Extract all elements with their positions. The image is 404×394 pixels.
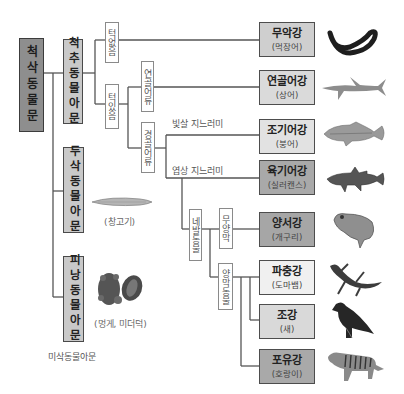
croaker-icon <box>322 119 386 149</box>
class-example: (새) <box>280 323 295 335</box>
class-example: (먹장어) <box>272 41 303 53</box>
subphylum-urochordata-box: 피낭동물아문 <box>63 256 84 342</box>
class-example: (호랑이) <box>272 368 303 380</box>
branch-jawless-box: 턱없음 <box>105 22 119 63</box>
class-sarcopterygii-box: 육기어강 (실러캔스) <box>259 160 315 195</box>
subphylum-cephalochordata-box: 두삭동물아문 <box>63 147 84 233</box>
branch-jawless-label: 턱없음 <box>106 29 119 56</box>
class-mammalia-box: 포유강 (호랑이) <box>259 349 315 384</box>
phylum-chordata-box: 척삭동물문 <box>19 38 44 132</box>
tiger-icon <box>326 347 386 383</box>
class-name: 조기어강 <box>267 124 307 138</box>
subphylum-urochordata-label: 피낭동물아문 <box>66 254 82 344</box>
sea-squirt-icon <box>96 270 146 310</box>
lizard-icon <box>326 260 384 300</box>
phylum-chordata-label: 척삭동물문 <box>23 45 40 125</box>
class-reptilia-box: 파충강 (도마뱀) <box>259 260 315 295</box>
class-actinopterygii-box: 조기어강 (붕어) <box>259 119 315 154</box>
class-example: (상어) <box>276 89 299 101</box>
lancelet-caption: (창고기) <box>104 215 135 228</box>
class-name: 육기어강 <box>267 165 307 179</box>
ray-finned-label: 빛살 지느러미 <box>172 117 223 130</box>
branch-amniotes-box: 양막동물 <box>218 263 233 310</box>
class-name: 양서강 <box>272 217 302 231</box>
class-example: (도마뱀) <box>272 279 303 291</box>
class-name: 파충강 <box>272 265 302 279</box>
class-agnatha-box: 무악강 (먹장어) <box>259 22 315 57</box>
branch-bony-box: 경골어류 <box>141 122 155 173</box>
branch-bony-label: 경골어류 <box>142 130 155 166</box>
branch-tetrapods-label: 네발동물 <box>189 217 202 253</box>
class-aves-box: 조강 (새) <box>259 304 315 339</box>
sea-squirt-caption: (멍게, 미더덕) <box>94 317 147 330</box>
class-name: 포유강 <box>272 354 302 368</box>
class-name: 조강 <box>277 309 297 323</box>
class-name: 연골어강 <box>267 75 307 89</box>
branch-tetrapods-box: 네발동물 <box>189 209 202 261</box>
branch-cartilaginous-box: 연골어류 <box>141 61 154 112</box>
subphylum-cephalochordata-label: 두삭동물아문 <box>66 145 82 235</box>
branch-anamniotes-box: 무양막 <box>219 208 233 249</box>
class-chondrichthyes-box: 연골어강 (상어) <box>259 70 315 105</box>
subphylum-vertebrata-label: 척추동물아문 <box>65 37 81 127</box>
class-example: (붕어) <box>276 138 299 150</box>
shark-icon <box>320 74 388 104</box>
eagle-icon <box>330 300 378 342</box>
coelacanth-icon <box>325 165 385 195</box>
lobe-finned-label: 엽상 지느러미 <box>172 164 223 177</box>
frog-icon <box>330 210 378 250</box>
lancelet-icon <box>90 194 154 210</box>
subphylum-vertebrata-box: 척추동물아문 <box>63 39 83 124</box>
class-name: 무악강 <box>272 27 302 41</box>
hagfish-icon <box>326 25 380 59</box>
branch-cartilaginous-label: 연골어류 <box>141 69 154 105</box>
class-example: (실러캔스) <box>268 179 307 191</box>
class-example: (개구리) <box>272 231 303 243</box>
branch-amniotes-label: 양막동물 <box>219 269 232 305</box>
branch-jawed-label: 턱있음 <box>106 93 119 120</box>
branch-jawed-box: 턱있음 <box>105 84 119 129</box>
branch-anamniotes-label: 무양막 <box>220 215 233 242</box>
urochordata-caption: 미삭동물아문 <box>48 350 96 363</box>
class-amphibia-box: 양서강 (개구리) <box>259 212 315 247</box>
